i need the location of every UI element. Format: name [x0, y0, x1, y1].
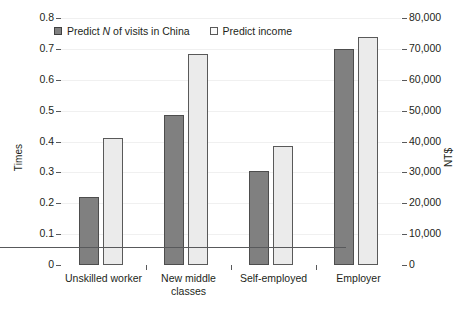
x-axis-category-label: New middle classes — [146, 272, 232, 298]
y-axis-right-tick-label: 80,000 — [409, 12, 441, 23]
y-axis-left-tick-label: 0.2 — [39, 197, 54, 208]
legend-label: Predict income — [223, 25, 292, 37]
x-axis-category-label: Unskilled worker — [61, 272, 147, 285]
plot-area — [61, 18, 401, 266]
chart-legend: Predict N of visits in ChinaPredict inco… — [54, 25, 292, 37]
y-axis-right-tick-mark — [402, 18, 407, 19]
bar-chart: Times NT$ 00.10.20.30.40.50.60.70.8 010,… — [0, 0, 460, 313]
bar[interactable] — [358, 37, 378, 265]
y-axis-right-tick-mark — [402, 234, 407, 235]
bar-group — [61, 18, 146, 265]
legend-item[interactable]: Predict income — [210, 25, 292, 37]
legend-swatch-icon — [210, 27, 218, 35]
y-axis-right-tick-mark — [402, 80, 407, 81]
y-axis-left-tick-label: 0.4 — [39, 136, 54, 147]
y-axis-right-tick-mark — [402, 203, 407, 204]
y-axis-right-tick-label: 70,000 — [409, 43, 441, 54]
y-axis-left-tick-label: 0.1 — [39, 228, 54, 239]
bar[interactable] — [188, 54, 208, 265]
y-axis-left-tick-label: 0.3 — [39, 166, 54, 177]
y-axis-left-tick-label: 0.8 — [39, 12, 54, 23]
x-axis-category-label: Self-employed — [231, 272, 317, 285]
x-axis-tick-mark — [231, 265, 232, 270]
bar[interactable] — [249, 171, 269, 265]
y-axis-left-tick-label: 0.6 — [39, 74, 54, 85]
y-axis-right-tick-mark — [402, 49, 407, 50]
bar-group — [146, 18, 231, 265]
y-axis-left-tick-label: 0 — [48, 259, 54, 270]
legend-swatch-icon — [54, 27, 62, 35]
legend-item[interactable]: Predict N of visits in China — [54, 25, 190, 37]
x-axis-tick-mark — [146, 265, 147, 270]
y-axis-left-tick-label: 0.5 — [39, 105, 54, 116]
y-axis-right-tick-label: 30,000 — [409, 166, 441, 177]
x-axis-tick-mark — [316, 265, 317, 270]
y-axis-right-tick-label: 60,000 — [409, 74, 441, 85]
y-axis-right-tick-mark — [402, 142, 407, 143]
x-axis-category-label: Employer — [316, 272, 402, 285]
y-axis-left-ticks: 00.10.20.30.40.50.60.70.8 — [16, 18, 54, 266]
y-axis-right-tick-mark — [402, 265, 407, 266]
y-axis-right-tick-label: 50,000 — [409, 105, 441, 116]
legend-label-italic: N — [103, 25, 111, 37]
legend-label: Predict N of visits in China — [67, 25, 190, 37]
bar[interactable] — [334, 49, 354, 265]
bar[interactable] — [164, 115, 184, 265]
y-axis-left-tick-label: 0.7 — [39, 43, 54, 54]
bar-group — [316, 18, 401, 265]
y-axis-right-tick-label: 20,000 — [409, 197, 441, 208]
y-axis-right-tick-label: 10,000 — [409, 228, 441, 239]
y-axis-right-tick-label: 0 — [409, 259, 415, 270]
y-axis-right-tick-mark — [402, 172, 407, 173]
y-axis-right-ticks: 010,00020,00030,00040,00050,00060,00070,… — [409, 18, 457, 266]
y-axis-right-tick-label: 40,000 — [409, 136, 441, 147]
bar[interactable] — [103, 138, 123, 265]
x-axis-line — [0, 247, 346, 248]
bar[interactable] — [79, 197, 99, 265]
y-axis-right-tick-mark — [402, 111, 407, 112]
bar-group — [231, 18, 316, 265]
